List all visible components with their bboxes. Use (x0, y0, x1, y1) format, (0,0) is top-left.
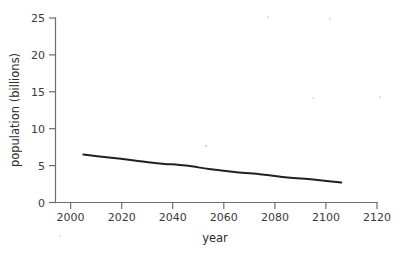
y-tick-label-25: 25 (31, 12, 45, 25)
y-tick-label-10: 10 (31, 123, 45, 136)
y-tick-label-15: 15 (31, 86, 45, 99)
x-tick-label-2040: 2040 (159, 211, 187, 224)
y-tick-label-20: 20 (31, 49, 45, 62)
y-axis-title: population (billions) (8, 53, 22, 167)
x-tick-label-2000: 2000 (57, 211, 85, 224)
x-axis-title: year (202, 231, 228, 245)
x-tick-label-2100: 2100 (312, 211, 340, 224)
x-tick-label-2120: 2120 (363, 211, 391, 224)
x-tick-label-2060: 2060 (210, 211, 238, 224)
y-tick-label-0: 0 (38, 197, 45, 210)
x-tick-label-2080: 2080 (261, 211, 289, 224)
y-tick-label-5: 5 (38, 160, 45, 173)
population-projection-chart: 0 5 10 15 20 25 2000 2020 2040 2060 2080… (0, 0, 402, 256)
x-tick-label-2020: 2020 (108, 211, 136, 224)
